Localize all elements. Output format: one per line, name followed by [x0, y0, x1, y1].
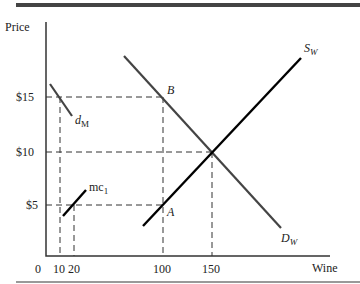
x-tick-10: 10 [53, 262, 65, 276]
dm-label: dM [75, 113, 89, 129]
x-tick-20: 20 [68, 262, 80, 276]
demand-curve-dm [50, 84, 72, 116]
point-a-label: A [166, 205, 175, 219]
x-tick-0: 0 [35, 262, 41, 276]
marginal-cost-curve-mc1 [63, 190, 86, 216]
y-tick-15: $15 [16, 90, 34, 104]
demand-curve-dw [124, 56, 281, 228]
y-tick-10: $10 [16, 145, 34, 159]
point-b-label: B [167, 83, 175, 97]
sw-label: SW [304, 41, 319, 57]
x-tick-150: 150 [202, 262, 220, 276]
axes [46, 22, 330, 256]
x-tick-100: 100 [153, 262, 171, 276]
dw-label: DW [280, 231, 299, 247]
y-tick-5: $5 [26, 198, 38, 212]
y-axis-label: Price [5, 20, 30, 34]
supply-demand-chart: Price Wine $15 $10 $5 0 10 20 100 150 B … [0, 0, 360, 284]
mc1-label: mc1 [89, 180, 108, 196]
x-axis-label: Wine [312, 261, 338, 275]
guide-lines [46, 97, 212, 256]
